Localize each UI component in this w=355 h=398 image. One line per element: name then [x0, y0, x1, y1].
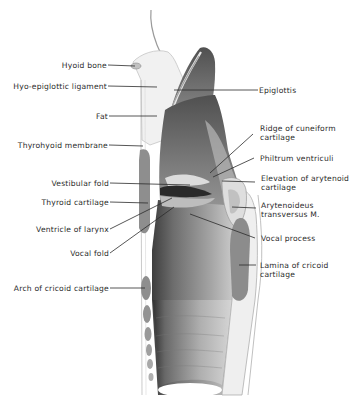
label-thyroid-cartilage: Thyroid cartilage	[41, 198, 109, 207]
label-arch-of-cricoid-cartilage: Arch of cricoid cartilage	[14, 284, 109, 293]
label-thyrohyoid-membrane: Thyrohyoid membrane	[18, 141, 108, 150]
label-arytenoideus-transversus: Arytenoideus transversus M.	[261, 201, 351, 219]
label-epiglottis: Epiglottis	[259, 86, 296, 95]
label-vestibular-fold: Vestibular fold	[51, 179, 109, 188]
label-philtrum-ventriculi: Philtrum ventriculi	[260, 154, 334, 163]
larynx-figure: Hyoid bone Hyo-epiglottic ligament Fat T…	[0, 0, 355, 398]
label-lamina-of-cricoid-cartilage: Lamina of cricoid cartilage	[260, 261, 350, 279]
thyroid-cartilage-shape	[139, 149, 150, 233]
label-ridge-of-cuneiform-cartilage: Ridge of cuneiform cartilage	[260, 124, 350, 142]
cricoid-lamina-shape	[230, 218, 250, 301]
label-ventricle-of-larynx: Ventricle of larynx	[36, 225, 109, 234]
tracheal-opening	[158, 383, 222, 397]
label-elevation-of-arytenoid-cartilage: Elevation of arytenoid cartilage	[261, 174, 351, 192]
label-vocal-fold: Vocal fold	[70, 249, 109, 258]
label-hyoid-bone: Hyoid bone	[62, 61, 107, 70]
label-hyo-epiglottic-ligament: Hyo-epiglottic ligament	[13, 82, 107, 91]
label-fat: Fat	[96, 112, 108, 121]
label-vocal-process: Vocal process	[261, 234, 315, 243]
